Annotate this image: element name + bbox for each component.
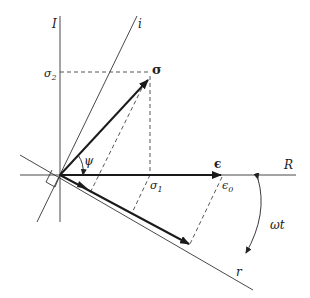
sigma-to-r-projection-2 xyxy=(93,80,148,193)
sigma1-to-r-projection xyxy=(132,175,150,213)
label-epsilon: ϵ xyxy=(214,157,221,171)
psi-angle-arc xyxy=(78,155,83,175)
label-sigma1: σ1 xyxy=(150,179,163,194)
sigma-vector xyxy=(60,80,148,175)
epsilon-to-r-projection xyxy=(190,177,222,244)
label-sigma: σ xyxy=(152,62,162,77)
label-sigma2: σ2 xyxy=(44,67,57,82)
phasor-diagram: I i R r σ ϵ σ2 σ1 ϵ0 ψ ωt xyxy=(0,0,310,298)
sigma-to-r-projection xyxy=(90,82,145,193)
label-R: R xyxy=(283,158,293,172)
label-psi: ψ xyxy=(84,154,94,168)
r-direction-arrowhead xyxy=(77,181,88,189)
origin-i-dash xyxy=(90,80,118,193)
label-r: r xyxy=(236,265,243,279)
label-epsilon0: ϵ0 xyxy=(222,179,233,194)
imag-axis-i xyxy=(37,16,137,222)
label-I: I xyxy=(51,17,57,31)
omega-t-angle-arc xyxy=(246,179,261,253)
label-omega-t: ωt xyxy=(270,218,285,232)
label-i: i xyxy=(138,17,142,31)
